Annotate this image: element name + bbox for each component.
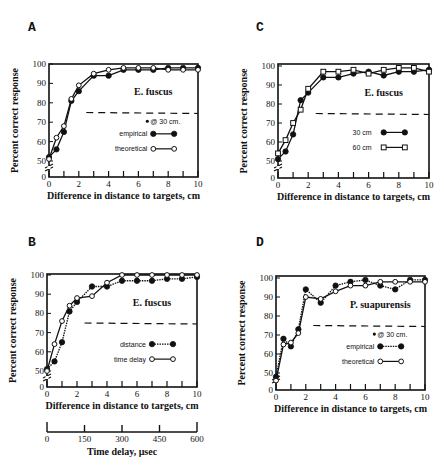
y-tick-label: 50 xyxy=(35,366,45,376)
y-tick-label: 70 xyxy=(35,328,45,338)
open-circle-marker xyxy=(408,279,413,284)
plot-frame xyxy=(47,274,197,387)
open-circle-marker xyxy=(54,135,59,140)
open-circle-marker xyxy=(195,273,200,278)
x2-tick-label: 0 xyxy=(45,434,50,444)
x2-tick-label: 150 xyxy=(78,434,92,444)
open-circle-marker xyxy=(196,67,201,72)
open-circle-marker xyxy=(180,273,185,278)
open-square-marker xyxy=(336,69,341,74)
filled-circle-marker xyxy=(402,130,407,135)
y-tick-label: 70 xyxy=(264,330,274,340)
open-square-marker xyxy=(283,138,288,143)
open-circle-marker xyxy=(423,279,428,284)
open-circle-marker xyxy=(150,273,155,278)
x-tick-label: 2 xyxy=(304,392,309,402)
y-axis-title: Percent correct response xyxy=(7,277,18,383)
legend-label: 30 cm xyxy=(353,129,372,136)
open-circle-marker xyxy=(171,357,176,362)
open-square-marker xyxy=(381,67,386,72)
open-circle-marker xyxy=(281,342,286,347)
y-tick-label: 0 xyxy=(271,173,276,183)
filled-circle-marker xyxy=(281,336,286,341)
open-circle-marker xyxy=(333,289,338,294)
x-tick-label: 2 xyxy=(77,179,82,189)
open-square-marker xyxy=(396,66,401,71)
x-tick-label: 8 xyxy=(393,392,398,402)
open-square-marker xyxy=(291,121,296,126)
x-tick-label: 6 xyxy=(135,389,140,399)
filled-circle-marker xyxy=(119,278,124,283)
chart-panel-a: 050607080901000246810Difference in dista… xyxy=(9,59,203,201)
open-circle-marker xyxy=(135,273,140,278)
filled-circle-marker xyxy=(89,284,94,289)
x-tick-label: 8 xyxy=(165,389,170,399)
y-axis-title: Percent correct response xyxy=(238,68,249,174)
y-axis-title: Percent correct response xyxy=(9,67,20,173)
x-tick-label: 4 xyxy=(336,180,341,190)
species-label: E. fuscus xyxy=(365,87,403,98)
open-circle-marker xyxy=(106,67,111,72)
y-tick-label: 90 xyxy=(37,78,47,88)
x-tick-label: 6 xyxy=(136,179,141,189)
y-tick-label: 100 xyxy=(260,273,274,283)
legend-label: distance xyxy=(120,341,146,348)
filled-circle-marker xyxy=(333,283,338,288)
x-tick-label: 8 xyxy=(166,179,171,189)
filled-circle-marker xyxy=(52,359,57,364)
y-tick-label: 0 xyxy=(269,385,274,395)
x2-axis-title: Time delay, μsec xyxy=(87,446,158,457)
x-axis-title: Difference in distance to targets, cm xyxy=(47,190,201,201)
open-circle-marker xyxy=(348,283,353,288)
open-circle-marker xyxy=(181,67,186,72)
open-circle-marker xyxy=(378,359,383,364)
y-tick-label: 90 xyxy=(35,289,45,299)
open-circle-marker xyxy=(76,83,81,88)
threshold-line xyxy=(86,113,198,114)
open-square-marker xyxy=(351,67,356,72)
filled-circle-marker xyxy=(290,132,295,137)
filled-circle-marker xyxy=(54,147,59,152)
open-circle-marker xyxy=(121,65,126,70)
open-square-marker xyxy=(276,151,281,156)
x-tick-label: 0 xyxy=(274,392,279,402)
open-circle-marker xyxy=(60,319,65,324)
legend-label: 60 cm xyxy=(353,144,372,151)
x2-tick-label: 600 xyxy=(190,434,204,444)
legend-label: empirical xyxy=(119,130,147,138)
y-tick-label: 70 xyxy=(266,118,276,128)
x-tick-label: 10 xyxy=(425,180,435,190)
filled-circle-marker xyxy=(398,344,403,349)
open-circle-marker xyxy=(296,331,301,336)
x-axis-title: Difference in distance to targets, cm xyxy=(45,400,199,411)
figure-canvas: 050607080901000246810Difference in dista… xyxy=(0,0,444,470)
open-square-marker xyxy=(402,145,407,150)
open-circle-marker xyxy=(363,283,368,288)
filled-circle-marker xyxy=(275,156,280,161)
open-square-marker xyxy=(412,66,417,71)
open-circle-marker xyxy=(399,359,404,364)
x-tick-label: 0 xyxy=(276,180,281,190)
filled-circle-marker xyxy=(149,341,154,346)
y-tick-label: 80 xyxy=(266,99,276,109)
filled-circle-marker xyxy=(393,287,398,292)
y-tick-label: 60 xyxy=(35,347,45,357)
open-circle-marker xyxy=(150,357,155,362)
chart-panel-d: 050607080901000246810Difference in dista… xyxy=(236,273,430,414)
legend-label: time delay xyxy=(114,356,146,364)
x-tick-label: 2 xyxy=(306,180,311,190)
threshold-line xyxy=(85,323,198,324)
open-square-marker xyxy=(298,107,303,112)
open-circle-marker xyxy=(47,157,52,162)
open-circle-marker xyxy=(62,124,67,129)
y-axis-title: Percent correct response xyxy=(236,280,247,386)
open-circle-marker xyxy=(151,65,156,70)
filled-circle-marker xyxy=(321,75,326,80)
y-tick-label: 80 xyxy=(264,311,274,321)
y-tick-label: 50 xyxy=(264,368,274,378)
x-tick-label: 8 xyxy=(397,180,402,190)
filled-circle-marker xyxy=(298,98,303,103)
filled-circle-marker xyxy=(134,278,139,283)
open-circle-marker xyxy=(165,273,170,278)
x-tick-label: 10 xyxy=(194,179,204,189)
